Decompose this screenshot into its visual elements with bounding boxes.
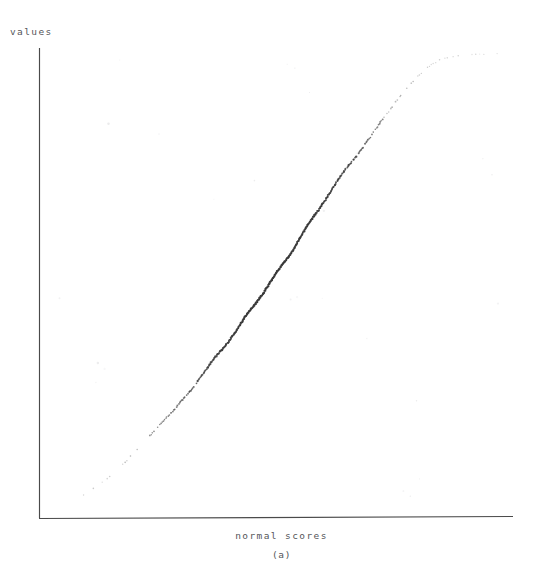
axes-group xyxy=(39,48,513,519)
panel-caption: (a) xyxy=(0,549,533,560)
qq-plot-figure: values normal scores (a) xyxy=(0,0,533,574)
x-axis-label: normal scores xyxy=(0,530,533,541)
scatter-points-group xyxy=(83,53,498,496)
y-axis-label: values xyxy=(10,26,53,37)
x-axis-line xyxy=(39,517,513,519)
plot-canvas xyxy=(0,0,533,574)
scan-speckle-group xyxy=(59,59,500,496)
